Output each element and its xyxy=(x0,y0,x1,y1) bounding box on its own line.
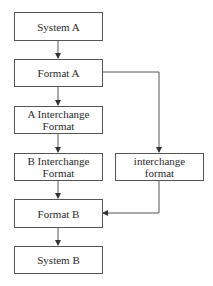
node-label: Format A xyxy=(38,67,80,79)
node-label-line-1: B Interchange xyxy=(28,155,90,167)
node-label-line-2: Format xyxy=(43,120,75,132)
node-interchange-format: interchange format xyxy=(115,153,204,181)
node-format-a: Format A xyxy=(14,59,103,87)
arrow-interchange-to-format-b xyxy=(103,180,159,213)
node-label: Format B xyxy=(38,208,80,220)
node-label: System B xyxy=(37,254,79,266)
node-a-interchange-format: A Interchange Format xyxy=(14,106,103,134)
node-system-b: System B xyxy=(14,246,103,274)
node-label-line-2: Format xyxy=(43,167,75,179)
node-label-line-2: format xyxy=(145,167,174,179)
connectors xyxy=(0,0,213,286)
node-label-line-1: interchange xyxy=(134,155,185,167)
node-system-a: System A xyxy=(14,12,103,41)
node-label: System A xyxy=(37,21,79,33)
node-format-b: Format B xyxy=(14,199,103,228)
node-label-line-1: A Interchange xyxy=(28,108,90,120)
node-b-interchange-format: B Interchange Format xyxy=(14,153,103,181)
arrow-format-a-to-interchange xyxy=(102,72,159,152)
